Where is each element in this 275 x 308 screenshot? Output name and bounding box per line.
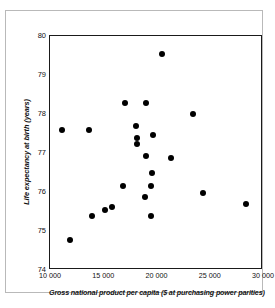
x-tick-label: 30 000 [252, 272, 272, 279]
scatter-point [102, 207, 108, 213]
y-tick-label: 78 [38, 110, 46, 118]
y-tick-label: 80 [38, 32, 46, 40]
scatter-point [134, 135, 140, 141]
figure: Life expectancy at birth (years) 7475767… [0, 0, 272, 308]
x-axis-title: Gross national product per capita ($ at … [49, 288, 262, 297]
scatter-point [89, 213, 95, 219]
x-tick-label: 25 000 [199, 272, 221, 279]
scatter-point [109, 204, 115, 210]
y-tick-label: 75 [38, 227, 46, 235]
scatter-point [190, 111, 196, 117]
scatter-point [149, 170, 155, 176]
x-tick-label: 15 000 [92, 272, 114, 279]
scatter-point [67, 237, 73, 243]
y-tick-label: 77 [38, 149, 46, 157]
y-axis-title: Life expectancy at birth (years) [20, 35, 32, 269]
scatter-point [143, 100, 149, 106]
scatter-point [148, 213, 154, 219]
scatter-point [243, 201, 249, 207]
scatter-point [59, 127, 65, 133]
scatter-point [150, 132, 156, 138]
scatter-point [133, 123, 139, 129]
x-tick-label: 20 000 [146, 272, 168, 279]
y-axis-title-text: Life expectancy at birth (years) [22, 99, 31, 205]
scatter-point [168, 155, 174, 161]
figure-frame: Life expectancy at birth (years) 7475767… [5, 10, 263, 293]
scatter-point [142, 194, 148, 200]
plot-area: 74757677787980 10 00015 00020 00025 0003… [49, 35, 262, 269]
scatter-point [148, 183, 154, 189]
scatter-point [120, 183, 126, 189]
x-tick-label: 10 000 [39, 272, 61, 279]
scatter-point [122, 100, 128, 106]
y-tick-label: 79 [38, 71, 46, 79]
scatter-point [159, 51, 165, 57]
scatter-point [143, 153, 149, 159]
y-tick-label: 76 [38, 188, 46, 196]
scatter-point [200, 190, 206, 196]
scatter-point [134, 141, 140, 147]
scatter-point [86, 127, 92, 133]
